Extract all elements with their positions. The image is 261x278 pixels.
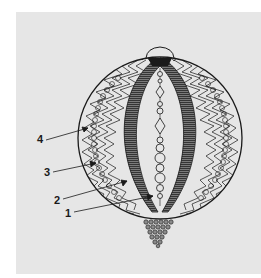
label-2: 2	[54, 195, 60, 206]
leader-line-1	[74, 196, 153, 212]
arrowhead-3	[90, 161, 96, 167]
central-bead-column	[155, 68, 165, 206]
arrowhead-4	[82, 127, 88, 132]
label-1: 1	[65, 208, 71, 219]
leader-line-4	[46, 128, 88, 140]
label-3: 3	[44, 167, 50, 178]
apical-cap	[148, 58, 172, 66]
arrowhead-2	[121, 180, 127, 186]
diagram-canvas: 4 3 2 1	[0, 0, 261, 278]
basal-bead-cluster	[144, 220, 173, 248]
label-4: 4	[37, 134, 43, 145]
